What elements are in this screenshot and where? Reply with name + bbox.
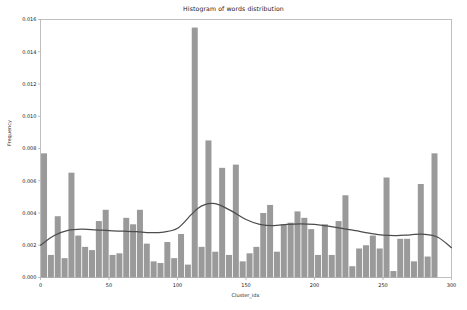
histogram-bar	[247, 253, 253, 277]
histogram-bar	[295, 211, 301, 277]
histogram-bar	[82, 247, 88, 278]
y-tick-label: 0.016	[22, 16, 36, 22]
histogram-bar	[349, 266, 355, 277]
histogram-bar	[151, 261, 157, 277]
histogram-bar	[390, 271, 396, 277]
histogram-bar	[384, 178, 390, 278]
histogram-bar	[253, 247, 259, 278]
histogram-bar	[89, 250, 95, 277]
histogram-bar	[288, 223, 294, 278]
plot-frame	[41, 20, 452, 278]
histogram-bar	[377, 248, 383, 277]
histogram-bar	[397, 239, 403, 278]
histogram-bars	[41, 28, 437, 278]
kde-line	[41, 203, 452, 247]
histogram-bar	[68, 173, 74, 278]
histogram-bar	[308, 229, 314, 277]
x-tick-label: 50	[106, 282, 112, 288]
histogram-bar	[212, 252, 218, 278]
histogram-bar	[322, 224, 328, 277]
kde-curve	[41, 203, 452, 247]
histogram-bar	[411, 261, 417, 277]
x-tick-label: 0	[39, 282, 42, 288]
histogram-bar	[171, 258, 177, 277]
histogram-plot: 0.0000.0020.0040.0060.0080.0100.0120.014…	[0, 0, 467, 310]
histogram-bar	[432, 153, 438, 277]
histogram-bar	[301, 218, 307, 278]
histogram-bar	[336, 221, 342, 277]
histogram-bar	[363, 245, 369, 277]
histogram-bar	[281, 224, 287, 277]
histogram-bar	[274, 252, 280, 278]
histogram-bar	[425, 257, 431, 278]
y-tick-label: 0.004	[22, 210, 36, 216]
histogram-bar	[329, 255, 335, 278]
chart-figure: Histogram of words distribution Frequenc…	[0, 0, 467, 310]
y-tick-label: 0.000	[22, 274, 36, 280]
histogram-bar	[48, 255, 54, 278]
histogram-bar	[418, 184, 424, 278]
histogram-bar	[233, 165, 239, 278]
histogram-bar	[75, 236, 81, 278]
y-tick-label: 0.008	[22, 145, 36, 151]
histogram-bar	[342, 195, 348, 277]
histogram-bar	[240, 261, 246, 277]
histogram-bar	[55, 216, 61, 277]
histogram-bar	[192, 28, 198, 278]
histogram-bar	[404, 239, 410, 278]
histogram-bar	[41, 153, 47, 277]
x-tick-label: 200	[310, 282, 320, 288]
histogram-bar	[116, 253, 122, 277]
histogram-bar	[199, 247, 205, 278]
x-axis-ticks: 050100150200250300	[39, 278, 456, 288]
histogram-bar	[144, 244, 150, 278]
histogram-bar	[178, 234, 184, 278]
histogram-bar	[260, 213, 266, 278]
y-tick-label: 0.014	[22, 49, 36, 55]
x-tick-label: 150	[241, 282, 251, 288]
x-tick-label: 250	[378, 282, 388, 288]
histogram-bar	[226, 255, 232, 278]
y-tick-label: 0.012	[22, 81, 36, 87]
histogram-bar	[158, 263, 164, 278]
histogram-bar	[205, 140, 211, 277]
histogram-bar	[110, 255, 116, 278]
histogram-bar	[267, 205, 273, 278]
histogram-bar	[62, 258, 68, 277]
histogram-bar	[103, 210, 109, 278]
histogram-bar	[219, 168, 225, 278]
histogram-bar	[164, 242, 170, 277]
histogram-bar	[123, 218, 129, 278]
histogram-bar	[137, 210, 143, 278]
histogram-bar	[185, 265, 191, 278]
x-tick-label: 100	[173, 282, 183, 288]
y-tick-label: 0.002	[22, 242, 36, 248]
histogram-bar	[370, 236, 376, 278]
y-tick-label: 0.010	[22, 113, 36, 119]
histogram-bar	[356, 248, 362, 277]
y-tick-label: 0.006	[22, 178, 36, 184]
y-axis-ticks: 0.0000.0020.0040.0060.0080.0100.0120.014…	[22, 16, 40, 280]
histogram-bar	[315, 255, 321, 278]
x-tick-label: 300	[447, 282, 457, 288]
